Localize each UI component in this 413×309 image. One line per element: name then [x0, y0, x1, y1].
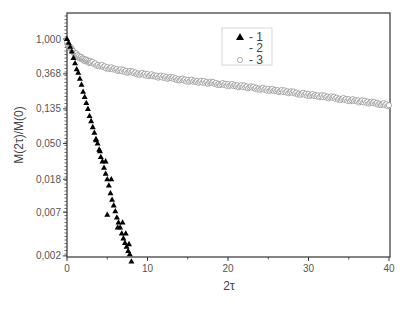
y-tick-label: 1,000 — [36, 34, 61, 45]
y-tick-label: 0,007 — [36, 207, 61, 218]
x-tick-label: 20 — [222, 263, 234, 274]
x-tick-label: 40 — [383, 263, 395, 274]
y-tick-label: 0,018 — [36, 174, 61, 185]
y-tick-label: 0,050 — [36, 138, 61, 149]
x-tick-label: 30 — [303, 263, 315, 274]
y-axis-title: M(2τ)/M(0) — [12, 106, 26, 163]
chart: 1,0000,3680,1350,0500,0180,0070,002 0102… — [0, 0, 413, 309]
x-tick-label: 0 — [64, 263, 70, 274]
legend: - 1 - 2 - 3 — [222, 28, 272, 67]
x-axis: 010203040 — [64, 257, 395, 274]
y-tick-label: 0,368 — [36, 68, 61, 79]
y-tick-label: 0,002 — [36, 250, 61, 261]
legend-box — [222, 28, 272, 65]
y-axis: 1,0000,3680,1350,0500,0180,0070,002 — [36, 16, 67, 261]
legend-label-3: - 3 — [249, 53, 263, 67]
y-tick-label: 0,135 — [36, 103, 61, 114]
x-axis-title: 2τ — [223, 279, 235, 293]
x-tick-label: 10 — [142, 263, 154, 274]
